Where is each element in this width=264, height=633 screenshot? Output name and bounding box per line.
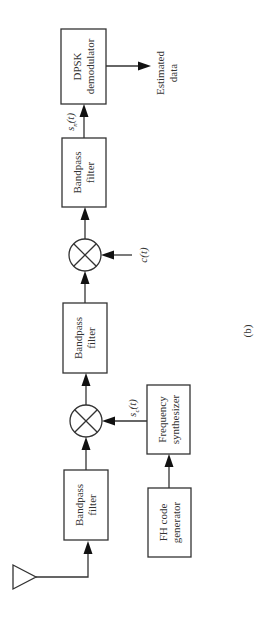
ct-label: c(t) [137,247,150,263]
arrowhead-icon [84,541,93,554]
svg-text:generator: generator [170,501,182,543]
svg-text:filter: filter [85,327,97,349]
estimated-data-label: Estimated data [154,51,179,95]
arrowhead-icon [82,373,91,386]
svg-text:Frequency: Frequency [156,396,168,443]
sc-label: sc(t) [126,399,141,417]
svg-text:synthesizer: synthesizer [169,394,181,444]
mixer-1-icon [70,405,102,437]
svg-text:c(t): c(t) [137,247,150,263]
arrowhead-icon [81,207,90,220]
ct-arrowhead-icon [101,251,114,260]
bandpass-filter-output-block: Bandpass filter [62,138,106,207]
svg-text:Estimated: Estimated [154,51,166,95]
svg-text:Bandpass: Bandpass [71,151,83,193]
bandpass-filter-middle-block: Bandpass filter [63,303,107,373]
svg-text:data: data [167,64,179,82]
sn-label: sn(t) [64,113,79,132]
figure-caption: (b) [241,324,254,337]
sc-arrowhead-icon [102,417,115,426]
antenna-icon [13,565,36,589]
dpsk-label-2: demodulator [84,38,96,94]
svg-text:Bandpass: Bandpass [73,484,85,526]
svg-text:filter: filter [86,494,98,516]
dpsk-label-1: DPSK [71,52,83,80]
mixer-2-icon [69,239,101,271]
svg-text:Bandpass: Bandpass [72,317,84,359]
arrowhead-icon [165,454,174,467]
bandpass-filter-input-block: Bandpass filter [64,470,108,540]
antenna-line [36,553,88,577]
output-arrowhead-icon [138,62,151,71]
fh-dpsk-receiver-diagram: DPSK demodulator Estimated data sn(t) Ba… [0,0,264,633]
dpsk-demodulator-block: DPSK demodulator [61,29,106,104]
svg-text:FH code: FH code [157,504,169,542]
svg-text:sc(t): sc(t) [126,399,141,417]
fh-code-generator-block: FH code generator [148,488,191,557]
svg-text:filter: filter [84,161,96,183]
arrowhead-icon [81,271,90,284]
sn-arrowhead-icon [80,104,89,117]
frequency-synthesizer-block: Frequency synthesizer [147,385,190,454]
svg-text:sn(t): sn(t) [64,113,79,132]
arrowhead-icon [82,437,91,450]
